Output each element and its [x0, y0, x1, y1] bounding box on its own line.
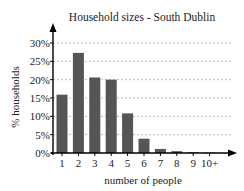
- y-tick-label: 10%: [30, 110, 50, 122]
- bar: [106, 80, 117, 153]
- bar: [139, 139, 150, 153]
- y-tick-label: 30%: [30, 37, 50, 49]
- x-tick-label: 10+: [198, 157, 222, 169]
- y-tick-label: 0%: [35, 147, 50, 159]
- y-tick-label: 25%: [30, 55, 50, 67]
- y-tick-label: 20%: [30, 74, 50, 86]
- bar: [57, 95, 68, 153]
- y-axis-arrow-icon: [50, 23, 57, 32]
- bar: [73, 53, 84, 153]
- y-tick-label: 15%: [30, 92, 50, 104]
- y-tick-label: 5%: [35, 129, 50, 141]
- bar: [122, 113, 133, 153]
- x-axis-arrow-icon: [228, 150, 237, 157]
- bar: [89, 77, 100, 153]
